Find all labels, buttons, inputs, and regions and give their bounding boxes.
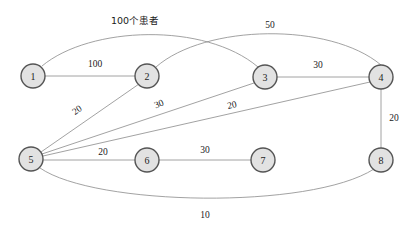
graph-edge-2-4 [156,34,381,67]
edge-label-5-6: 20 [98,147,108,157]
edge-label-5-2: 20 [70,103,84,117]
graph-node-4[interactable]: 4 [369,65,393,89]
edge-label-1-2: 100 [88,59,103,69]
graph-node-5[interactable]: 5 [19,147,43,171]
edge-label-5-4: 20 [226,99,238,111]
node-circle-6[interactable] [135,148,159,172]
graph-node-6[interactable]: 6 [135,148,159,172]
node-circle-7[interactable] [251,148,275,172]
node-circle-1[interactable] [21,64,45,88]
graph-diagram-canvas: 100个患者501003020203020203010 12345678 [0,0,415,234]
node-circle-2[interactable] [135,64,159,88]
edge-label-1-3: 100个患者 [111,15,159,26]
nodes-layer: 12345678 [19,64,393,172]
node-circle-8[interactable] [369,148,393,172]
graph-node-8[interactable]: 8 [369,148,393,172]
edge-label-2-4: 50 [265,20,275,30]
node-circle-3[interactable] [253,65,277,89]
edge-label-5-8: 10 [200,210,210,220]
graph-node-1[interactable]: 1 [21,64,45,88]
edge-label-3-4: 30 [313,60,323,70]
graph-svg: 100个患者501003020203020203010 12345678 [0,0,415,234]
edge-label-6-7: 30 [200,145,210,155]
edge-labels-layer: 100个患者501003020203020203010 [70,15,399,221]
graph-edge-5-8 [40,168,374,198]
edge-label-4-8: 20 [389,113,399,123]
edge-label-5-3: 30 [153,97,166,110]
graph-edge-5-3 [42,83,254,154]
graph-edge-1-3 [42,35,258,67]
graph-node-2[interactable]: 2 [135,64,159,88]
node-circle-5[interactable] [19,147,43,171]
graph-edge-5-2 [41,84,139,152]
graph-node-3[interactable]: 3 [253,65,277,89]
graph-node-7[interactable]: 7 [251,148,275,172]
node-circle-4[interactable] [369,65,393,89]
